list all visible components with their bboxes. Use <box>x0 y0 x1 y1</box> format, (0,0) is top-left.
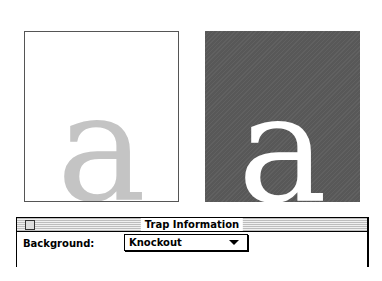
preview-panel-white-on-dark: a <box>205 31 360 202</box>
background-select-value: Knockout <box>129 237 182 248</box>
background-select[interactable]: Knockout <box>124 234 248 251</box>
window-title: Trap Information <box>141 218 243 231</box>
title-bar[interactable]: Trap Information <box>17 218 367 232</box>
letter-glyph: a <box>205 74 360 202</box>
background-label: Background: <box>23 238 94 249</box>
letter-glyph: a <box>25 73 178 202</box>
preview-panel-gray-on-white: a <box>24 31 179 202</box>
trap-information-palette: Trap Information Background: Knockout <box>16 217 369 267</box>
close-box-icon[interactable] <box>25 220 35 230</box>
background-row: Background: Knockout <box>23 234 367 254</box>
dropdown-arrow-icon <box>229 240 239 245</box>
